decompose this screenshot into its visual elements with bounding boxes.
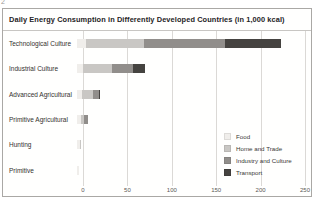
x-tick-label-100: 100 [167,187,177,193]
bar-row: Industrial Culture [3,56,311,81]
bar-segment-industry-and-culture [84,115,88,124]
bar-segment-food [77,166,79,175]
legend-label: Home and Trade [236,145,282,152]
bar-segment-transport [225,39,281,48]
chart-title: Daily Energy Consumption in Differently … [9,15,285,24]
chart-container: Daily Energy Consumption in Differently … [2,8,312,197]
bar-track [77,90,299,99]
x-tick-label-200: 200 [256,187,266,193]
legend-item: Industry and Culture [224,154,292,166]
x-tick-label-150: 150 [211,187,221,193]
bar-segment-home-and-trade [82,90,93,99]
legend-label: Industry and Culture [236,157,292,164]
legend-item: Transport [224,166,292,178]
legend-swatch-icon [224,145,231,152]
legend-swatch-icon [224,133,231,140]
page: { "page": { "marker": "2" }, "chart_data… [0,0,315,202]
legend-swatch-icon [224,157,231,164]
legend: FoodHome and TradeIndustry and CultureTr… [224,130,292,178]
bar-row: Technological Culture [3,31,311,56]
category-label: Hunting [3,141,77,148]
bar-row: Advanced Agricultural [3,82,311,107]
legend-item: Food [224,130,292,142]
bar-segment-home-and-trade [80,140,82,149]
legend-item: Home and Trade [224,142,292,154]
bar-segment-industry-and-culture [144,39,225,48]
chart-title-bar: Daily Energy Consumption in Differently … [3,9,311,31]
bar-track [77,64,299,73]
category-label: Primitive [3,167,77,174]
bar-segment-transport [99,90,100,99]
plot-area: Technological CultureIndustrial CultureA… [3,31,311,195]
bar-segment-transport [133,64,145,73]
bar-segment-home-and-trade [86,39,145,48]
bar-row: Primitive Agricultural [3,107,311,132]
category-label: Advanced Agricultural [3,91,77,98]
bar-track [77,115,299,124]
page-number-marker: 2 [1,0,5,5]
bar-track [77,39,299,48]
x-tick-label-50: 50 [124,187,131,193]
legend-swatch-icon [224,169,231,176]
legend-label: Food [236,133,250,140]
x-tick-label-250: 250 [300,187,310,193]
category-label: Primitive Agricultural [3,116,77,123]
x-tick-label-0: 0 [81,187,84,193]
bar-segment-food [77,39,86,48]
bar-segment-industry-and-culture [112,64,133,73]
bar-segment-home-and-trade [83,64,111,73]
category-label: Technological Culture [3,40,77,47]
legend-label: Transport [236,169,262,176]
category-label: Industrial Culture [3,65,77,72]
